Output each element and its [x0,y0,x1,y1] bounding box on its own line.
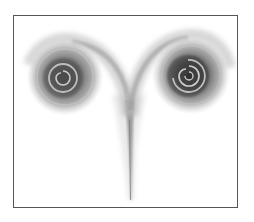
left-spiral [28,40,102,114]
right-spiral [153,37,229,113]
illustration-canvas [0,0,254,222]
spiral-illustration [0,0,254,222]
